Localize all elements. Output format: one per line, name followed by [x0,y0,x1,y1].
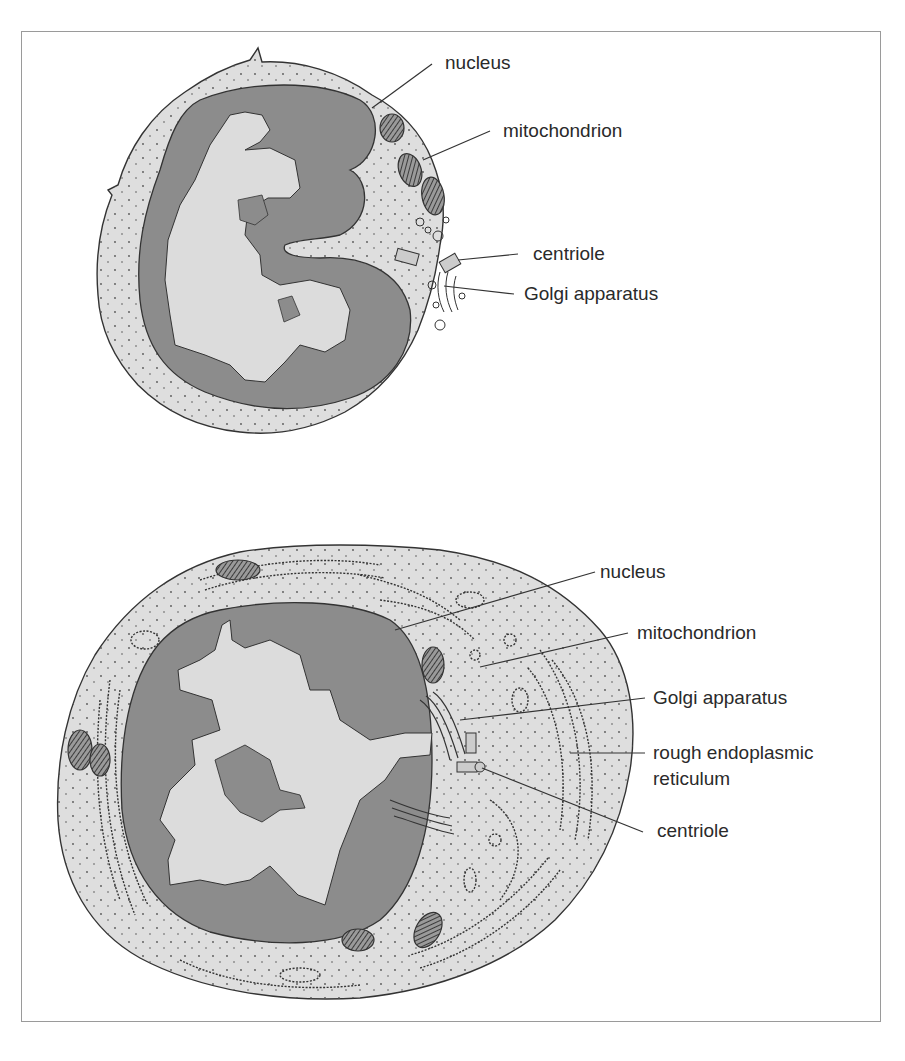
top-cell [97,48,518,433]
bottom-mitochondrion-2 [216,560,260,580]
bottom-cell [58,545,645,999]
bottom-label-nucleus: nucleus [600,561,666,583]
bottom-label-rer-line1: rough endoplasmic [653,742,814,764]
top-label-golgi: Golgi apparatus [524,283,658,305]
top-mitochondrion-1 [380,114,404,142]
top-centriole-2 [439,253,461,272]
top-label-nucleus: nucleus [445,52,511,74]
bottom-mitochondrion-1 [422,647,444,683]
top-label-mitochondrion: mitochondrion [503,120,622,142]
bottom-centriole-1 [466,733,476,753]
bottom-mitochondrion-4 [90,744,110,776]
bottom-mitochondrion-5 [342,929,374,951]
bottom-label-rer-line2: reticulum [653,768,730,790]
cell-diagram [0,0,905,1061]
bottom-mitochondrion-3 [68,730,92,770]
bottom-label-mitochondrion: mitochondrion [637,622,756,644]
bottom-label-golgi: Golgi apparatus [653,687,787,709]
bottom-label-centriole: centriole [657,820,729,842]
bottom-centriole-2 [457,762,477,772]
top-label-centriole: centriole [533,243,605,265]
